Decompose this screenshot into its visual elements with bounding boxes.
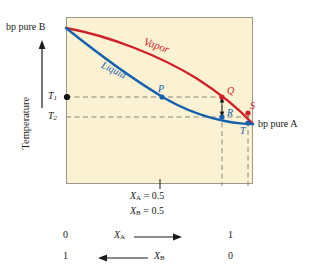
figure-canvas: Temperature bp pure B bp pure A Vapor Li… [0, 0, 318, 273]
bp-pure-b-label: bp pure B [6, 22, 45, 32]
y-axis-label: Temperature [21, 78, 32, 168]
xb-scale-sub: B [160, 254, 165, 262]
xa-scale-sub: A [120, 233, 125, 241]
point-label-P: P [158, 84, 164, 94]
xa-half-label: XA = 0.5 [130, 191, 164, 202]
xb-scale-left-value: 1 [63, 251, 68, 261]
point-label-S: S [250, 101, 255, 111]
point-marker-R [219, 114, 224, 119]
xa-scale-name: XA [114, 230, 125, 241]
y-tick-label-T1: T1 [48, 91, 57, 102]
point-label-T: T [240, 126, 246, 136]
xb-direction-arrow [98, 255, 148, 262]
point-label-Q: Q [227, 86, 234, 96]
xb-scale-right-value: 0 [228, 251, 233, 261]
xa-direction-arrow [134, 234, 182, 241]
xa-scale-right-value: 1 [228, 230, 233, 240]
axis-dot-T1 [64, 94, 70, 100]
point-marker-Q [219, 94, 224, 99]
y-tick-T2-sub: 2 [54, 114, 58, 122]
y-tick-label-T2: T2 [48, 111, 57, 122]
xa-scale-left-value: 0 [63, 230, 68, 240]
xa-half-value: = 0.5 [141, 190, 164, 201]
xb-scale-name: XB [154, 251, 165, 262]
temperature-axis-arrow [39, 40, 46, 108]
xb-half-label: XB = 0.5 [130, 206, 164, 217]
bp-pure-a-label: bp pure A [258, 119, 297, 129]
point-marker-S [245, 110, 250, 115]
point-marker-T [245, 120, 250, 125]
point-label-R: R [227, 108, 233, 118]
y-tick-T1-sub: 1 [54, 94, 58, 102]
xb-half-value: = 0.5 [141, 205, 164, 216]
point-marker-P [159, 94, 164, 99]
